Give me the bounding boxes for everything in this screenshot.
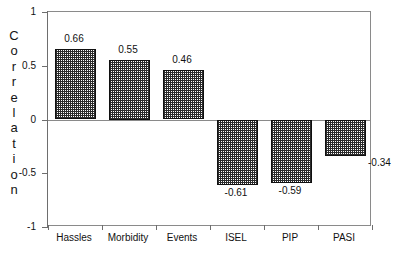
y-axis-title-letter: o xyxy=(10,43,17,58)
y-axis-tick-label: 1 xyxy=(0,6,36,17)
bar-value-label: 0.46 xyxy=(152,54,212,65)
x-axis-tick xyxy=(48,225,49,230)
x-axis-tick xyxy=(156,225,157,230)
bar-value-label: 0.66 xyxy=(44,33,104,44)
x-axis-tick xyxy=(264,225,265,230)
bar[interactable] xyxy=(109,60,150,119)
bar-value-label: -0.61 xyxy=(206,187,266,198)
y-axis-tick-label: 0.5 xyxy=(0,59,36,70)
bar[interactable] xyxy=(217,120,258,186)
x-axis-tick xyxy=(318,225,319,230)
y-axis-title-letter: e xyxy=(10,90,17,105)
bar[interactable] xyxy=(163,70,204,119)
y-axis-tick xyxy=(42,173,48,174)
y-axis-title-letter: r xyxy=(12,74,16,89)
x-axis-category-label: ISEL xyxy=(225,232,247,243)
zero-line xyxy=(48,120,370,121)
bar[interactable] xyxy=(325,120,366,157)
x-axis-category-label: Morbidity xyxy=(108,232,149,243)
y-axis-tick-label: -1 xyxy=(0,221,36,232)
y-axis-tick xyxy=(42,66,48,67)
x-axis-category-label: Events xyxy=(167,232,198,243)
x-axis-tick xyxy=(372,225,373,230)
y-axis-tick xyxy=(42,120,48,121)
bar[interactable] xyxy=(55,49,96,120)
y-axis-tick xyxy=(42,227,48,228)
bar-value-label: -0.59 xyxy=(260,185,320,196)
y-axis-title-letter: C xyxy=(9,28,18,43)
y-axis-title-letter: t xyxy=(12,136,16,151)
x-axis-category-label: PASI xyxy=(333,232,355,243)
bar-value-label: 0.55 xyxy=(98,44,158,55)
y-axis-tick-label: -0.5 xyxy=(0,167,36,178)
x-axis-tick xyxy=(210,225,211,230)
y-axis-tick-label: 0 xyxy=(0,113,36,124)
y-axis-tick xyxy=(42,12,48,13)
y-axis-title-letter: i xyxy=(13,151,16,166)
x-axis-tick xyxy=(102,225,103,230)
x-axis-category-label: PIP xyxy=(282,232,298,243)
bar[interactable] xyxy=(271,120,312,183)
y-axis-title-letter: n xyxy=(10,182,17,197)
bar-value-label: -0.34 xyxy=(368,157,396,168)
x-axis-category-label: Hassles xyxy=(56,232,92,243)
